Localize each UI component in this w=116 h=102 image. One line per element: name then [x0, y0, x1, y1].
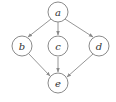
- edge-a-b: [28, 19, 51, 37]
- node-d: d: [89, 36, 109, 56]
- node-c-label: c: [55, 41, 61, 52]
- edge-a-d: [65, 19, 93, 37]
- node-e-label: e: [55, 78, 61, 89]
- edge-b-e: [29, 54, 50, 76]
- dag-diagram: a b c d e: [0, 0, 116, 102]
- node-b: b: [12, 36, 32, 56]
- node-b-label: b: [19, 41, 25, 52]
- node-c: c: [48, 36, 68, 56]
- node-a-label: a: [55, 7, 61, 18]
- edge-d-e: [67, 54, 93, 77]
- node-e: e: [48, 73, 68, 93]
- node-d-label: d: [96, 41, 102, 52]
- node-a: a: [48, 2, 68, 22]
